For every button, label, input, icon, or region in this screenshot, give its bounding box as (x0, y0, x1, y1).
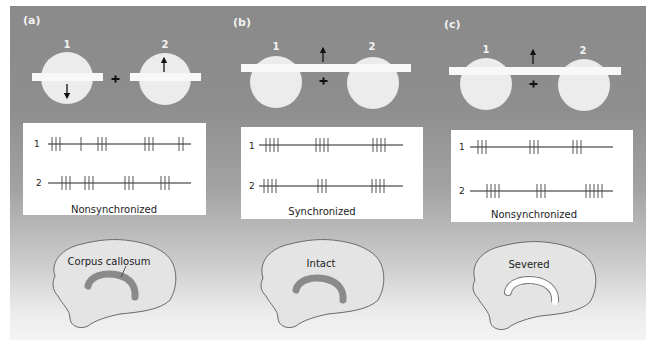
brain-outline (261, 240, 384, 328)
panel-c-brain: Severed (473, 242, 596, 330)
light-bar-2 (130, 73, 201, 81)
panel-a-stimulus: 1 2 (32, 39, 201, 105)
row-1-label: 1 (459, 142, 465, 152)
cell-2-label: 2 (162, 39, 169, 50)
brain-outline (53, 240, 176, 328)
cell-2-label: 2 (369, 41, 376, 52)
spike-caption: Nonsynchronized (491, 209, 577, 220)
receptive-field-1 (460, 58, 512, 110)
panel-c-spike-trains: 1 2 Nonsynchronized (451, 130, 633, 222)
row-1-label: 1 (249, 141, 255, 151)
row-2-label: 2 (459, 186, 465, 196)
panel-b-brain: Intact (261, 240, 384, 328)
panel-b-spike-trains: 1 2 Synchronized (241, 127, 423, 219)
panel-c: (c) 1 2 1 2 Non (444, 18, 633, 330)
spike-caption: Synchronized (288, 206, 355, 217)
corpus-callosum-label: Corpus callosum (68, 256, 151, 267)
panel-c-stimulus: 1 2 (449, 44, 621, 111)
cell-1-label: 1 (483, 44, 490, 55)
row-2-label: 2 (36, 178, 42, 188)
panel-b: (b) 1 2 1 2 Syn (233, 16, 423, 328)
brain-outline (473, 242, 596, 330)
receptive-field-2 (558, 59, 610, 111)
panel-c-letter: (c) (444, 18, 461, 31)
row-2-label: 2 (249, 181, 255, 191)
spike-box (23, 123, 206, 215)
cell-1-label: 1 (273, 41, 280, 52)
panel-b-letter: (b) (233, 16, 251, 29)
cell-2-label: 2 (580, 45, 587, 56)
fixation-plus-icon (320, 78, 328, 85)
long-light-bar (241, 64, 411, 72)
light-bar-1 (32, 73, 103, 81)
row-1-label: 1 (34, 139, 40, 149)
figure-canvas: (a) 1 2 1 2 (0, 0, 654, 354)
fixation-plus-icon (112, 76, 120, 83)
panel-b-stimulus: 1 2 (241, 41, 411, 109)
receptive-field-1 (250, 56, 302, 108)
panel-a-spike-trains: 1 2 Nonsynchronized (23, 123, 206, 215)
panel-a-brain: Corpus callosum (53, 240, 176, 328)
cell-1-label: 1 (64, 39, 71, 50)
severed-label: Severed (509, 259, 550, 270)
panel-a-letter: (a) (23, 14, 40, 27)
spike-caption: Nonsynchronized (71, 204, 157, 215)
intact-label: Intact (307, 258, 336, 269)
panel-a: (a) 1 2 1 2 (23, 14, 206, 328)
long-light-bar (449, 67, 621, 75)
fixation-plus-icon (530, 81, 538, 88)
